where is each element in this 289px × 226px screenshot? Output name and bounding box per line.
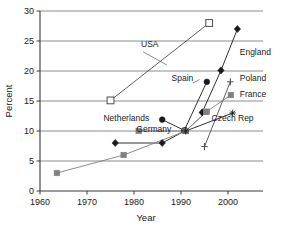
- data-point-marker: [159, 117, 165, 123]
- tick-labels: 05101520253019601970198019902000: [24, 6, 238, 207]
- data-point-marker: [227, 78, 233, 85]
- x-tick-label: 1990: [171, 197, 191, 207]
- data-point-marker: [234, 25, 240, 32]
- data-point-marker: [228, 92, 234, 98]
- axis-ticks: [37, 11, 229, 195]
- data-point-marker: [159, 139, 165, 146]
- series-label-france: France: [240, 89, 267, 99]
- data-point-marker: [107, 97, 114, 104]
- series-label-czech-rep: Czech Rep: [212, 113, 254, 123]
- gridlines: [40, 11, 263, 161]
- leader-line: [193, 80, 200, 83]
- x-axis-title: Year: [136, 212, 155, 223]
- y-tick-label: 0: [29, 186, 34, 196]
- data-point-marker: [183, 128, 189, 135]
- data-point-marker: [206, 20, 213, 27]
- data-point-marker: [121, 152, 127, 158]
- x-tick-label: 1980: [124, 197, 144, 207]
- y-tick-label: 15: [24, 96, 34, 106]
- leader-line: [143, 52, 167, 65]
- data-point-marker: [204, 79, 210, 85]
- y-tick-label: 20: [24, 66, 34, 76]
- data-point-marker: [54, 170, 60, 176]
- y-tick-label: 5: [29, 156, 34, 166]
- series-line-usa: [111, 23, 210, 100]
- x-tick-label: 1960: [30, 197, 50, 207]
- series-label-england: England: [240, 47, 271, 57]
- y-axis-title: Percent: [3, 84, 14, 117]
- data-point-marker: [204, 109, 210, 115]
- series-label-spain: Spain: [172, 73, 194, 83]
- data-point-marker: [112, 139, 118, 146]
- series-label-germany: Germany: [136, 124, 172, 134]
- data-point-marker: [218, 67, 224, 74]
- x-tick-label: 2000: [218, 197, 238, 207]
- series-label-usa: USA: [141, 39, 159, 49]
- data-point-marker: [201, 143, 207, 150]
- x-tick-label: 1970: [77, 197, 97, 207]
- chart-container: 05101520253019601970198019902000 USAEngl…: [0, 0, 289, 226]
- y-tick-label: 10: [24, 126, 34, 136]
- line-chart: 05101520253019601970198019902000 USAEngl…: [0, 0, 289, 226]
- y-tick-label: 25: [24, 36, 34, 46]
- series-label-netherlands: Netherlands: [103, 113, 149, 123]
- series-label-poland: Poland: [240, 73, 267, 83]
- y-tick-label: 30: [24, 6, 34, 16]
